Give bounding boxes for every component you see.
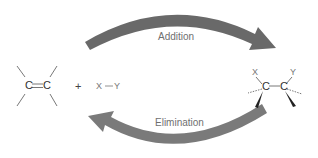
product-carbon-2: C <box>280 81 288 92</box>
reagent-y: Y <box>114 82 120 91</box>
alkene-carbon-2: C <box>43 80 51 91</box>
product-carbon-1: C <box>262 81 270 92</box>
elimination-label: Elimination <box>155 117 204 128</box>
alkene-structure <box>17 66 57 106</box>
plus-sign: + <box>75 81 81 92</box>
product-substituent-x: X <box>252 68 258 77</box>
reagent-x: X <box>96 82 102 91</box>
product-substituent-y: Y <box>290 68 296 77</box>
product-structure <box>248 77 302 94</box>
addition-label: Addition <box>158 31 194 42</box>
alkene-carbon-1: C <box>25 80 33 91</box>
